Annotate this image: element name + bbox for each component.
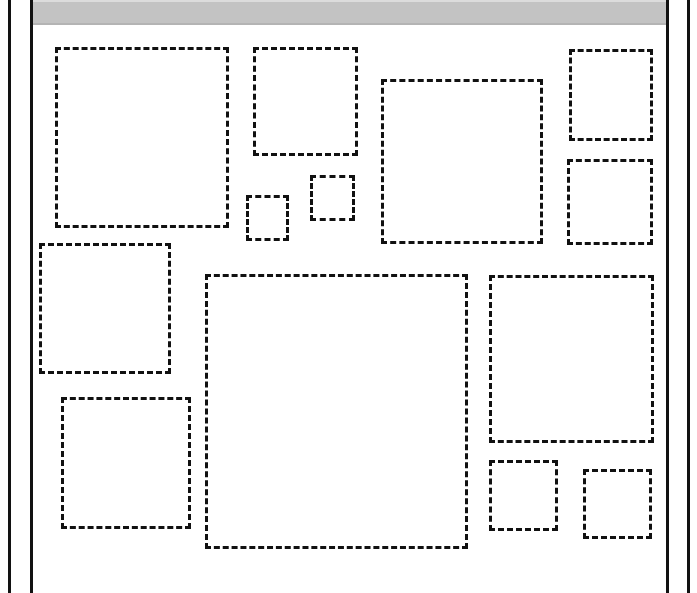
region-box-top-center-large[interactable]: [381, 79, 543, 244]
region-box-mid-right[interactable]: [489, 275, 654, 443]
region-box-top-right-upper[interactable]: [569, 49, 653, 141]
region-box-center-largest[interactable]: [205, 274, 468, 549]
page-canvas: [0, 0, 697, 593]
region-box-bottom-right-small-b[interactable]: [583, 469, 652, 539]
inner-left-rule: [30, 0, 33, 593]
region-box-bottom-left[interactable]: [61, 397, 191, 529]
page-header-band: [30, 0, 666, 25]
region-box-top-left-large[interactable]: [55, 47, 229, 228]
outer-right-rule: [687, 0, 690, 593]
region-box-top-right-lower[interactable]: [567, 159, 653, 245]
region-box-mid-left[interactable]: [39, 243, 171, 374]
region-box-bottom-right-small-a[interactable]: [489, 460, 558, 531]
outer-left-rule: [8, 0, 11, 593]
inner-right-rule: [666, 0, 669, 593]
region-box-small-inline-right[interactable]: [310, 175, 355, 221]
region-box-small-inline-left[interactable]: [246, 195, 289, 241]
region-box-top-column[interactable]: [253, 47, 358, 156]
